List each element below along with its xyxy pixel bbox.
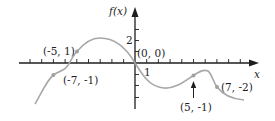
label-point-minus5-1: (-5, 1) xyxy=(43,45,75,57)
x-axis-label: x xyxy=(254,68,260,80)
point-minus7-minus1 xyxy=(51,73,55,77)
y-axis-arrow-icon xyxy=(132,7,139,17)
y-tick-label-two: 2 xyxy=(126,34,133,46)
label-point-0-0: (0, 0) xyxy=(137,47,165,59)
y-axis-label: f(x) xyxy=(108,5,127,17)
point-5-minus1 xyxy=(192,74,196,78)
function-graph: x 1 f(x) 2 (-5, 1) (-7, -1) (0, 0) (5, -… xyxy=(0,0,275,121)
x-axis-arrow-icon xyxy=(249,60,259,67)
x-tick-label-one: 1 xyxy=(144,66,151,78)
point-minus5-1 xyxy=(75,50,79,54)
label-point-5-minus1: (5, -1) xyxy=(180,101,212,113)
label-point-7-minus2: (7, -2) xyxy=(221,81,253,93)
pointer-arrow-icon xyxy=(191,81,196,98)
y-axis: f(x) 2 xyxy=(108,5,139,109)
label-point-minus7-minus1: (-7, -1) xyxy=(63,74,98,86)
point-7-minus2 xyxy=(215,85,219,89)
